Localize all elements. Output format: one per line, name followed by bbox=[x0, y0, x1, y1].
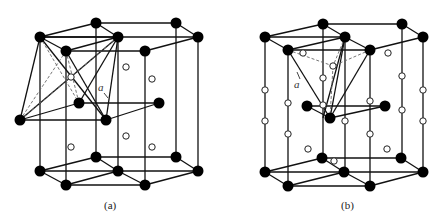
middle-layer-edges bbox=[307, 106, 385, 118]
panel-a-caption: (a) bbox=[104, 199, 117, 212]
lattice-parameter-label: a bbox=[98, 81, 104, 93]
panel-b: a bbox=[260, 19, 429, 213]
crystal-structure-diagram: a bbox=[0, 0, 443, 223]
panel-a: a bbox=[15, 18, 204, 213]
middle-layer-edges bbox=[20, 103, 159, 120]
panel-b-caption: (b) bbox=[341, 199, 354, 212]
lattice-parameter-label: a bbox=[294, 78, 300, 90]
